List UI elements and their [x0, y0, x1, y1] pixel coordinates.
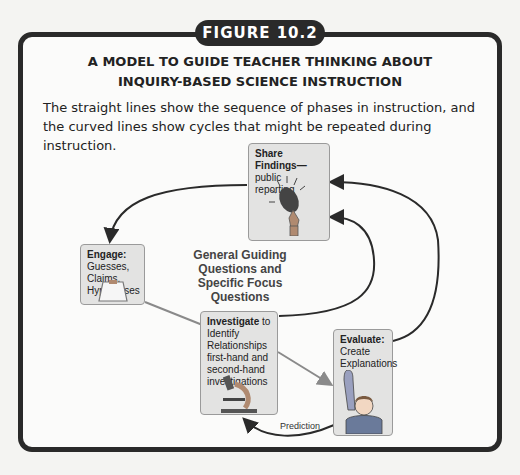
- center-line-1: General Guiding: [190, 248, 290, 262]
- arrow-evaluate-to-share: [332, 182, 439, 341]
- microscope-icon: [219, 374, 263, 414]
- investigate-text-3: first-hand and: [207, 352, 271, 364]
- clipboard-icon: [95, 279, 131, 303]
- evaluate-heading: Evaluate:: [340, 334, 384, 345]
- investigate-heading: Investigate: [207, 316, 259, 327]
- node-investigate: Investigate to Identify Relationships fi…: [200, 311, 278, 415]
- node-share-findings: Share Findings— public reporting: [248, 143, 330, 241]
- center-line-2: Questions and: [190, 262, 290, 276]
- investigate-text-2: Relationships: [207, 340, 271, 352]
- evaluate-text-2: Explanations: [340, 358, 386, 370]
- microphone-icon: [267, 174, 313, 236]
- engage-heading: Engage:: [87, 249, 126, 260]
- investigate-heading-suffix: to: [259, 316, 270, 327]
- investigate-text-1: Identify: [207, 328, 271, 340]
- node-engage: Engage: Guesses, Claims, Hypotheses: [80, 244, 145, 305]
- raised-hand-student-icon: [338, 370, 388, 434]
- prediction-label: Prediction: [280, 421, 320, 431]
- node-evaluate: Evaluate: Create Explanations: [333, 329, 393, 436]
- center-line-3: Specific Focus: [190, 276, 290, 290]
- center-line-4: Questions: [190, 290, 290, 304]
- arrow-investigate-to-evaluate: [278, 352, 330, 384]
- center-guiding-questions: General Guiding Questions and Specific F…: [190, 248, 290, 304]
- arrow-share-to-engage: [110, 185, 247, 240]
- share-heading: Share Findings—: [255, 148, 307, 171]
- evaluate-text-1: Create: [340, 346, 386, 358]
